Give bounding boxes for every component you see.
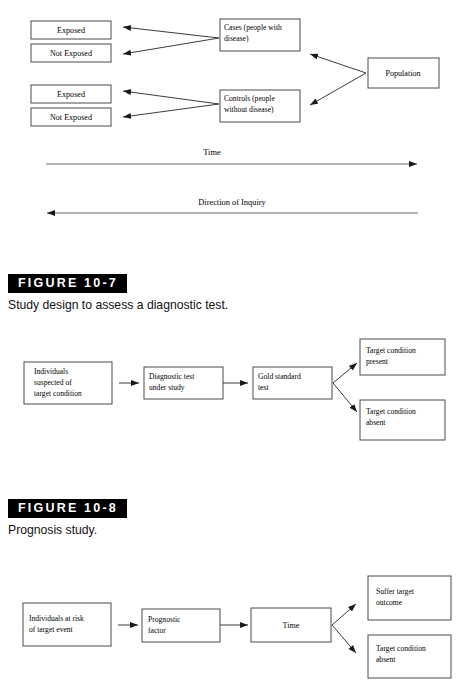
box-prognostic-factor-line2: factor <box>148 626 166 635</box>
box-target-condition-present-line2: present <box>366 357 389 366</box>
figure-10-7-tag: FIGURE 10-7 <box>8 274 127 293</box>
box-individuals-suspected-line2: suspected of <box>34 378 72 387</box>
box-prognosis-target-condition-absent-line2: absent <box>376 655 396 664</box>
arrow-population-to-cases <box>310 54 366 73</box>
box-gold-standard-line2: test <box>258 383 269 392</box>
box-cases-label-line1: Cases (people with <box>224 23 282 32</box>
arrow-controls-to-not-exposed <box>123 104 219 117</box>
box-individuals-at-risk-line1: Individuals at risk <box>29 614 84 623</box>
box-gold-standard-line1: Gold standard <box>258 372 301 381</box>
arrow-time-to-absent <box>332 625 356 653</box>
box-target-condition-absent-line1: Target condition <box>366 407 416 416</box>
arrow-cases-to-exposed <box>123 27 219 38</box>
box-cases-label-line2: disease) <box>224 34 249 43</box>
diagnostic-test-diagram: Individuals suspected of target conditio… <box>0 336 456 466</box>
arrow-gold-to-absent <box>333 383 357 412</box>
arrow-time-to-suffer <box>332 604 356 625</box>
box-individuals-suspected-line1: Individuals <box>34 367 68 376</box>
box-individuals-suspected-line3: target condition <box>34 389 82 398</box>
prognosis-diagram: Individuals at risk of target event Prog… <box>0 565 456 684</box>
box-population-label: Population <box>385 69 420 78</box>
box-target-condition-absent-line2: absent <box>366 418 386 427</box>
box-controls-label-line1: Controls (people <box>224 94 275 103</box>
box-individuals-at-risk-line2: of target event <box>29 625 74 634</box>
box-exposed-top-label: Exposed <box>57 26 85 35</box>
case-control-diagram: Exposed Not Exposed Exposed Not Exposed … <box>0 0 456 240</box>
box-diagnostic-test-line2: under study <box>149 383 185 392</box>
figure-10-8-header: FIGURE 10-8 Prognosis study. <box>0 498 456 537</box>
box-controls-label-line2: without disease) <box>224 105 274 114</box>
box-not-exposed-top-label: Not Exposed <box>50 49 92 58</box>
box-diagnostic-test-line1: Diagnostic test <box>149 372 195 381</box>
box-not-exposed-bottom-label: Not Exposed <box>50 113 92 122</box>
arrow-controls-to-exposed <box>123 91 219 104</box>
inquiry-axis-label: Direction of Inquiry <box>198 198 266 207</box>
box-prognosis-target-condition-absent-line1: Target condition <box>376 644 426 653</box>
time-axis-label: Time <box>203 148 221 157</box>
arrow-gold-to-present <box>333 363 357 383</box>
figure-10-7-caption: Study design to assess a diagnostic test… <box>8 298 456 312</box>
box-target-condition-present-line1: Target condition <box>366 346 416 355</box>
box-exposed-bottom-label: Exposed <box>57 90 85 99</box>
box-prognostic-factor-line1: Prognostic <box>148 615 181 624</box>
box-suffer-target-outcome-line1: Suffer target <box>376 587 415 596</box>
figure-10-8-caption: Prognosis study. <box>8 523 456 537</box>
arrow-population-to-controls <box>310 73 366 105</box>
box-time-label: Time <box>283 621 300 630</box>
box-suffer-target-outcome-line2: outcome <box>376 598 403 607</box>
figure-10-8-tag: FIGURE 10-8 <box>8 499 127 518</box>
arrow-cases-to-not-exposed <box>123 38 219 54</box>
figure-10-7-header: FIGURE 10-7 Study design to assess a dia… <box>0 273 456 312</box>
